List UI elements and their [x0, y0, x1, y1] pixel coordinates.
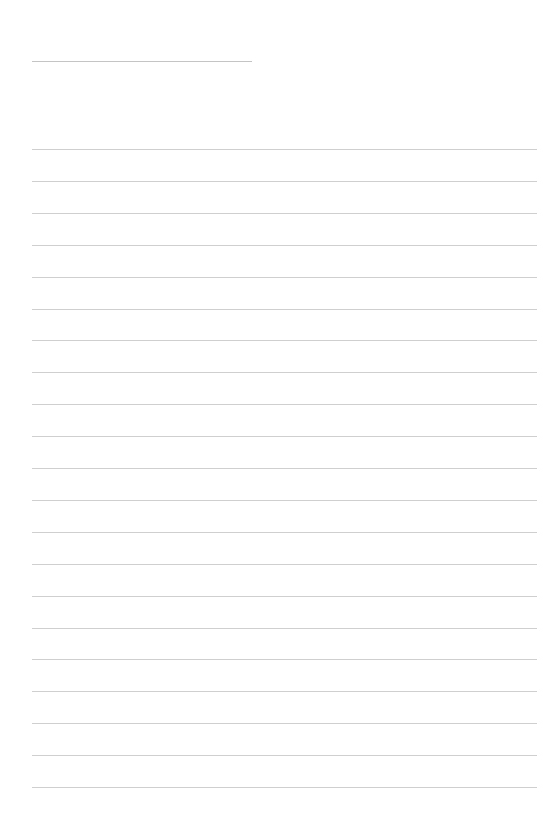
- ruled-line: [32, 149, 537, 150]
- ruled-line: [32, 628, 537, 629]
- ruled-line: [32, 309, 537, 310]
- ruled-line: [32, 532, 537, 533]
- ruled-line: [32, 691, 537, 692]
- ruled-line: [32, 659, 537, 660]
- ruled-line: [32, 213, 537, 214]
- ruled-line: [32, 564, 537, 565]
- ruled-line: [32, 340, 537, 341]
- ruled-line: [32, 468, 537, 469]
- ruled-line: [32, 436, 537, 437]
- ruled-line: [32, 404, 537, 405]
- ruled-line: [32, 372, 537, 373]
- ruled-line: [32, 181, 537, 182]
- ruled-line: [32, 500, 537, 501]
- ruled-line: [32, 755, 537, 756]
- ruled-line: [32, 723, 537, 724]
- ruled-line: [32, 596, 537, 597]
- ruled-line: [32, 787, 537, 788]
- ruled-line: [32, 277, 537, 278]
- ruled-line: [32, 245, 537, 246]
- title-line: [32, 61, 252, 62]
